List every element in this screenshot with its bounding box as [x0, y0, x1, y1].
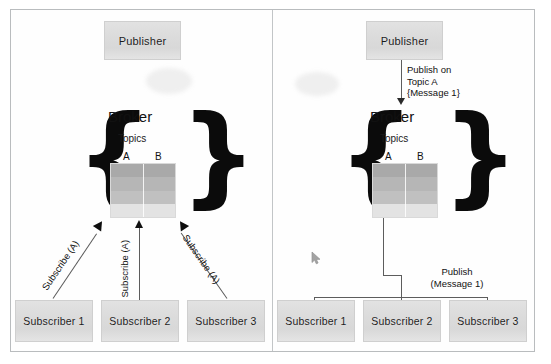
- broker-title: Broker: [108, 108, 152, 125]
- subscribe-edge-1-arrowhead-icon: [93, 218, 106, 231]
- panel-publish-phase: Publisher Publish on Topic A {Message 1}…: [273, 10, 534, 351]
- publish-fanout-jog: [383, 275, 402, 276]
- topic-cell: [111, 191, 143, 204]
- subscribe-edge-2-arrowhead-icon: [135, 220, 143, 228]
- topic-cell: [373, 191, 405, 204]
- topic-cell: [405, 177, 437, 190]
- topic-cell: [143, 177, 175, 190]
- publish-fanout-stem-upper: [383, 218, 384, 275]
- topic-cell: [405, 204, 437, 217]
- topic-cell: [405, 191, 437, 204]
- scan-smudge: [295, 72, 339, 96]
- topic-column-b-label: B: [155, 151, 162, 162]
- subscriber-2-label: Subscriber 2: [371, 315, 432, 327]
- topic-cell: [111, 177, 143, 190]
- figure-canvas: Publisher { } Broker Topics A B: [0, 0, 551, 364]
- publisher-label: Publisher: [381, 35, 429, 47]
- topics-label: Topics: [380, 133, 408, 144]
- topic-cell: [111, 204, 143, 217]
- publish-message-label: Publish (Message 1): [407, 266, 507, 289]
- broker-brace-right-icon: }: [442, 102, 519, 210]
- topic-cell: [143, 164, 175, 177]
- subscriber-3-box: Subscriber 3: [187, 300, 265, 342]
- subscribe-edge-3-arrowhead-icon: [176, 218, 189, 231]
- subscriber-1-label: Subscriber 1: [285, 315, 346, 327]
- subscriber-2-box: Subscriber 2: [101, 300, 179, 342]
- subscribe-edge-2-label: Subscribe (A): [119, 240, 130, 298]
- subscriber-3-label: Subscriber 3: [457, 315, 518, 327]
- topic-cell: [373, 204, 405, 217]
- publish-fanout-stem-lower: [401, 275, 402, 297]
- topic-column-separator: [405, 164, 406, 217]
- mouse-cursor-icon: [311, 251, 322, 265]
- subscriber-1-box: Subscriber 1: [15, 300, 93, 342]
- publisher-box: Publisher: [104, 21, 181, 60]
- topic-cell: [143, 191, 175, 204]
- topic-column-a-label: A: [123, 151, 130, 162]
- subscribe-edge-3-label: Subscribe (A): [180, 232, 222, 285]
- topic-column-b-label: B: [417, 151, 424, 162]
- topic-cell: [143, 204, 175, 217]
- scan-smudge: [146, 68, 192, 94]
- subscriber-2-label: Subscriber 2: [109, 315, 170, 327]
- panel-subscribe-phase: Publisher { } Broker Topics A B: [11, 10, 272, 351]
- subscriber-1-box: Subscriber 1: [277, 300, 355, 342]
- broker-brace-right-icon: }: [180, 102, 257, 210]
- subscriber-2-box: Subscriber 2: [363, 300, 441, 342]
- subscribe-edge-2-line: [139, 228, 140, 300]
- topic-cell: [405, 164, 437, 177]
- broker-title: Broker: [370, 108, 414, 125]
- topics-grid: [372, 163, 438, 218]
- topic-cell: [373, 177, 405, 190]
- topics-grid: [110, 163, 176, 218]
- publisher-label: Publisher: [119, 35, 167, 47]
- topic-column-a-label: A: [385, 151, 392, 162]
- subscriber-3-label: Subscriber 3: [195, 315, 256, 327]
- topic-column-separator: [143, 164, 144, 217]
- subscriber-1-label: Subscriber 1: [23, 315, 84, 327]
- topic-cell: [373, 164, 405, 177]
- topic-cell: [111, 164, 143, 177]
- publisher-box: Publisher: [366, 21, 443, 60]
- topics-label: Topics: [118, 133, 146, 144]
- subscriber-3-box: Subscriber 3: [449, 300, 527, 342]
